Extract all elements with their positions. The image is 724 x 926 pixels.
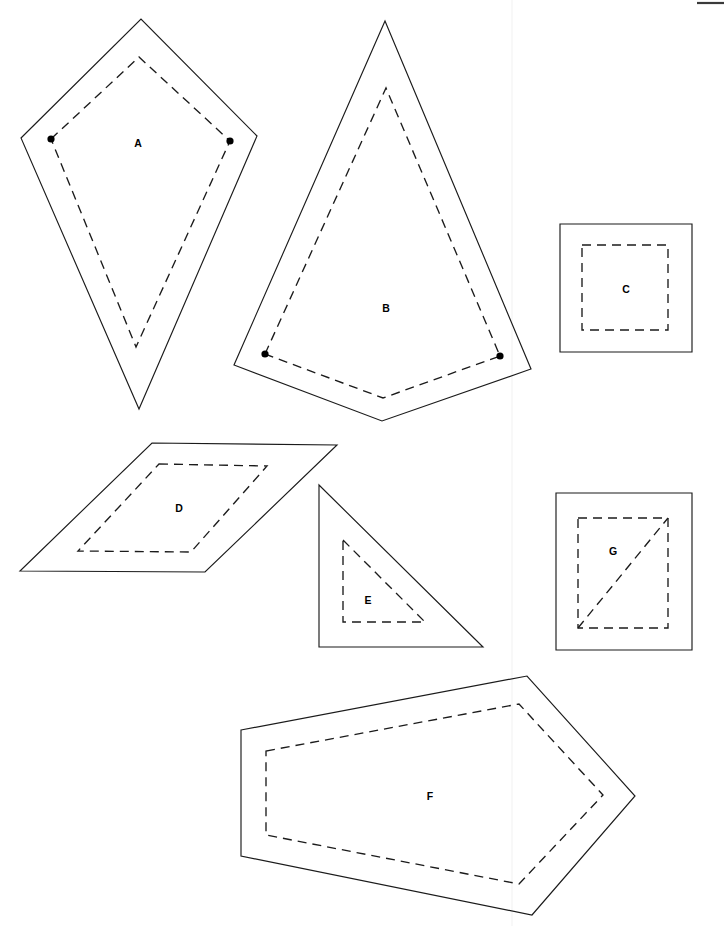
- shape-label-B: B: [382, 302, 390, 314]
- shape-inner-dashed-A: [51, 57, 230, 347]
- worksheet-canvas: ABCDEFG: [0, 0, 724, 926]
- vertex-dot-A-1: [47, 135, 54, 142]
- guides-layer: [512, 0, 724, 926]
- shape-outline-E: [319, 485, 483, 647]
- shape-label-F: F: [427, 790, 434, 802]
- shape-inner-dashed-F: [266, 704, 603, 884]
- shape-inner-dashed-D: [78, 464, 267, 552]
- shapes-layer: ABCDEFG: [20, 19, 692, 915]
- shape-inner-dashed-B: [265, 88, 500, 398]
- vertex-dot-A-2: [226, 137, 233, 144]
- shape-label-G: G: [609, 545, 617, 557]
- shape-group-E[interactable]: E: [319, 485, 483, 647]
- shape-diagonal-G: [578, 518, 668, 628]
- shape-label-D: D: [175, 502, 183, 514]
- shape-label-E: E: [364, 594, 371, 606]
- shape-group-D[interactable]: D: [20, 443, 337, 572]
- shape-group-G[interactable]: G: [556, 493, 692, 650]
- vertex-dot-B-1: [261, 350, 268, 357]
- shape-label-A: A: [134, 137, 142, 149]
- shape-label-C: C: [622, 283, 630, 295]
- shape-outline-F: [241, 676, 635, 915]
- shape-group-A[interactable]: A: [21, 19, 257, 409]
- shape-outline-G: [556, 493, 692, 650]
- shape-group-C[interactable]: C: [560, 224, 692, 352]
- shape-group-B[interactable]: B: [234, 21, 531, 421]
- shape-outline-A: [21, 19, 257, 409]
- shape-outline-B: [234, 21, 531, 421]
- shape-inner-dashed-E: [343, 540, 425, 622]
- shapes-figure: ABCDEFG: [0, 0, 724, 926]
- shape-group-F[interactable]: F: [241, 676, 635, 915]
- vertex-dot-B-2: [496, 352, 503, 359]
